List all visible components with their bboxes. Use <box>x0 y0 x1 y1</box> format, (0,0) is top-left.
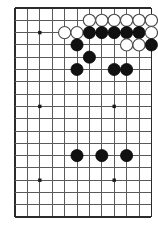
black-stone-c5-r12[interactable] <box>71 150 83 162</box>
white-stone-c8-r1[interactable] <box>108 14 120 26</box>
white-stone-c10-r1[interactable] <box>133 14 145 26</box>
black-stone-c9-r12[interactable] <box>121 150 133 162</box>
black-stone-c6-r4[interactable] <box>83 51 95 63</box>
star-point-4 <box>113 179 116 182</box>
white-stone-c11-r2[interactable] <box>145 26 157 38</box>
white-stone-c7-r1[interactable] <box>96 14 108 26</box>
white-stone-c5-r2[interactable] <box>71 26 83 38</box>
black-stone-c9-r5[interactable] <box>121 63 133 75</box>
black-stone-c5-r5[interactable] <box>71 63 83 75</box>
black-stone-c5-r3[interactable] <box>71 39 83 51</box>
white-stone-c9-r3[interactable] <box>121 39 133 51</box>
star-point-3 <box>113 105 116 108</box>
black-stone-c6-r2[interactable] <box>83 26 95 38</box>
black-stone-c9-r2[interactable] <box>121 26 133 38</box>
star-point-2 <box>38 179 41 182</box>
white-stone-c10-r3[interactable] <box>133 39 145 51</box>
black-stone-c11-r3[interactable] <box>145 39 157 51</box>
star-point-0 <box>38 31 41 34</box>
black-stone-c8-r2[interactable] <box>108 26 120 38</box>
black-stone-c8-r5[interactable] <box>108 63 120 75</box>
black-stone-c7-r12[interactable] <box>96 150 108 162</box>
white-stone-c9-r1[interactable] <box>121 14 133 26</box>
white-stone-c4-r2[interactable] <box>59 26 71 38</box>
go-board-svg[interactable] <box>0 0 158 232</box>
white-stone-c6-r1[interactable] <box>83 14 95 26</box>
go-board-diagram <box>0 0 158 232</box>
black-stone-c10-r2[interactable] <box>133 26 145 38</box>
star-point-1 <box>38 105 41 108</box>
black-stone-c7-r2[interactable] <box>96 26 108 38</box>
white-stone-c11-r1[interactable] <box>145 14 157 26</box>
